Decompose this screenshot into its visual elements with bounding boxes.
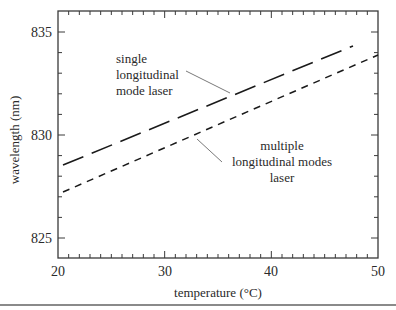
x-tick-label-40: 40 — [264, 264, 278, 279]
annotation-single-line2: longitudinal — [116, 67, 179, 82]
x-tick-label-30: 30 — [158, 264, 172, 279]
x-tick-label-50: 50 — [371, 264, 385, 279]
annotation-multi-line1: multiple — [260, 138, 304, 153]
x-axis-label: temperature (°C) — [174, 285, 262, 300]
leader-line-multi — [197, 139, 222, 162]
axis-ticks — [58, 11, 378, 258]
leader-line-single — [186, 71, 230, 93]
y-axis-label: wavelength (nm) — [7, 96, 22, 184]
annotation-single-line3: mode laser — [116, 83, 173, 98]
annotation-multi-line3: laser — [270, 170, 295, 185]
series-single-mode-line — [63, 46, 353, 165]
series-multi-mode-line — [63, 55, 378, 192]
annotation-single-line1: single — [116, 51, 147, 66]
chart: 835 830 825 20 30 40 50 temperature (°C)… — [0, 0, 396, 310]
bottom-divider — [0, 304, 396, 306]
plot-frame — [58, 11, 378, 258]
y-tick-label-825: 825 — [31, 231, 52, 246]
y-tick-label-835: 835 — [31, 25, 52, 40]
annotation-multi-line2: longitudinal modes — [232, 154, 332, 169]
y-tick-label-830: 830 — [31, 128, 52, 143]
x-tick-label-20: 20 — [51, 264, 65, 279]
